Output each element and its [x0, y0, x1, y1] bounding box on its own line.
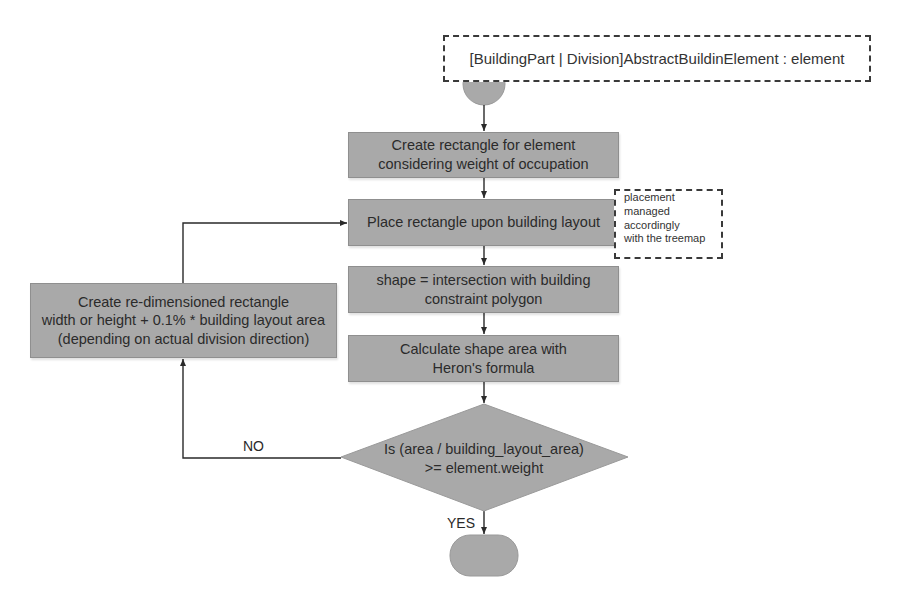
decision-text-line: >= element.weight — [374, 459, 594, 478]
edge-label-no: NO — [243, 438, 264, 454]
step-text-line: considering weight of occupation — [378, 155, 588, 174]
step-text-line: Calculate shape area with — [400, 340, 567, 359]
note-text-line: managed — [624, 205, 670, 219]
note-text-line: with the treemap — [624, 232, 705, 246]
input-element-note: [BuildingPart | Division]AbstractBuildin… — [443, 35, 871, 82]
note-text-line: accordingly — [624, 219, 680, 233]
decision-text: Is (area / building_layout_area) >= elem… — [374, 440, 594, 477]
end-node — [450, 535, 518, 576]
step-text-line: constraint polygon — [425, 290, 543, 309]
step-text-line: shape = intersection with building — [376, 271, 590, 290]
edge-label-yes: YES — [447, 515, 475, 531]
step-place-rectangle: Place rectangle upon building layout — [348, 199, 619, 246]
edge-loop-step-to-place — [183, 223, 347, 283]
step-text-line: width or height + 0.1% * building layout… — [42, 311, 325, 330]
step-text-line: Place rectangle upon building layout — [367, 213, 600, 232]
decision-text-line: Is (area / building_layout_area) — [374, 440, 594, 459]
treemap-placement-note: placement managed accordingly with the t… — [614, 189, 723, 259]
step-create-rectangle: Create rectangle for element considering… — [348, 132, 619, 178]
step-text-line: (depending on actual division direction) — [58, 330, 310, 349]
note-text-line: placement — [624, 191, 675, 205]
step-calculate-area: Calculate shape area with Heron's formul… — [348, 335, 619, 382]
step-text-line: Create re-dimensioned rectangle — [78, 293, 289, 312]
input-element-note-text: [BuildingPart | Division]AbstractBuildin… — [470, 49, 845, 68]
step-text-line: Heron's formula — [433, 359, 535, 378]
step-intersection: shape = intersection with building const… — [348, 266, 619, 313]
step-redimension-rectangle: Create re-dimensioned rectangle width or… — [30, 283, 337, 358]
step-text-line: Create rectangle for element — [392, 136, 576, 155]
